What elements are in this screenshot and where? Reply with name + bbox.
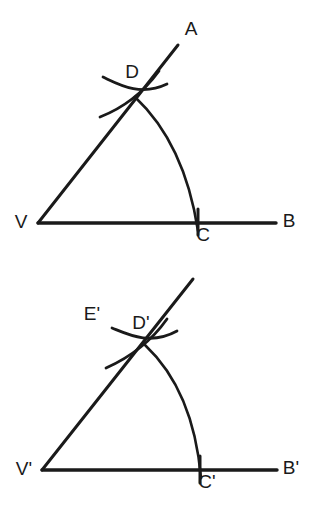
label-point-v: V xyxy=(15,211,28,232)
label-point-b: B xyxy=(283,210,296,231)
figure-copied-angle: V' B' C' D' E' xyxy=(16,279,299,492)
main-arc-cprime-dprime xyxy=(145,345,201,478)
label-point-bprime: B' xyxy=(283,457,299,478)
label-point-a: A xyxy=(185,18,198,39)
label-point-vprime: V' xyxy=(16,458,32,479)
label-point-dprime: D' xyxy=(132,312,149,333)
label-point-eprime: E' xyxy=(84,303,100,324)
label-point-d: D xyxy=(125,61,139,82)
label-point-cprime: C' xyxy=(198,471,215,492)
label-point-c: C xyxy=(196,224,210,245)
figure-original-angle: V A B C D xyxy=(15,18,296,245)
diagram-root: V A B C D V' B' C' D' E' xyxy=(0,0,315,507)
geometry-canvas: V A B C D V' B' C' D' E' xyxy=(0,0,315,507)
main-arc-cd xyxy=(135,97,198,231)
